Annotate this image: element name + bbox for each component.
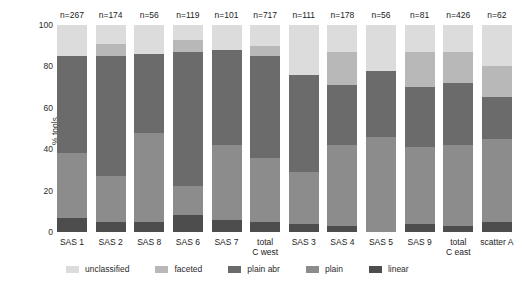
bar-segment-plain-abr[interactable] [134,54,164,133]
legend-swatch-icon [306,266,319,273]
bar-segment-plain[interactable] [57,153,87,217]
bar-segment-plain-abr[interactable] [443,83,473,145]
bar-segment-faceted[interactable] [405,52,435,87]
bar-segment-plain-abr[interactable] [212,50,242,145]
y-tick-label: 20 [44,186,53,196]
bar-column[interactable]: n=717total C west [250,25,280,232]
x-tick-label: scatter A [480,238,513,248]
bar-segment-unclassified[interactable] [482,25,512,66]
y-tick-label: 80 [44,61,53,71]
bar-segment-plain[interactable] [134,133,164,222]
bar-segment-plain-abr[interactable] [405,87,435,147]
bar-segment-unclassified[interactable] [405,25,435,52]
bar-segment-linear[interactable] [96,222,126,232]
bar-column[interactable]: n=267SAS 1 [57,25,87,232]
y-tick-label: 40 [44,144,53,154]
x-tick-label: SAS 6 [176,238,200,248]
x-tick-label: SAS 2 [99,238,123,248]
x-tick-label: SAS 7 [214,238,238,248]
bar-count-label: n=174 [99,10,123,20]
bar-segment-plain[interactable] [327,145,357,226]
bar-segment-linear[interactable] [443,226,473,232]
bar-segment-unclassified[interactable] [443,25,473,52]
legend-item[interactable]: plain [306,264,343,274]
x-tick-label: SAS 8 [137,238,161,248]
bar-column[interactable]: n=174SAS 2 [96,25,126,232]
bar-column[interactable]: n=426total C east [443,25,473,232]
bar-segment-faceted[interactable] [173,40,203,52]
bar-segment-plain-abr[interactable] [96,56,126,176]
x-tick-label: SAS 3 [292,238,316,248]
x-tick-label: SAS 4 [330,238,354,248]
bar-column[interactable]: n=62scatter A [482,25,512,232]
x-tick-label: total C east [446,238,471,257]
bar-segment-unclassified[interactable] [289,25,319,75]
bar-segment-plain-abr[interactable] [482,97,512,138]
bar-column[interactable]: n=111SAS 3 [289,25,319,232]
bar-segment-faceted[interactable] [250,46,280,56]
bar-segment-linear[interactable] [212,220,242,232]
bar-segment-plain[interactable] [405,147,435,224]
legend-label: faceted [174,264,202,274]
bar-segment-plain-abr[interactable] [327,85,357,145]
bar-segment-plain-abr[interactable] [289,75,319,172]
bar-segment-faceted[interactable] [96,44,126,56]
bar-segment-linear[interactable] [173,215,203,232]
bar-segment-plain-abr[interactable] [250,56,280,157]
bar-column[interactable]: n=81SAS 9 [405,25,435,232]
bar-segment-unclassified[interactable] [366,25,396,71]
legend-item[interactable]: unclassified [66,264,129,274]
bar-column[interactable]: n=119SAS 6 [173,25,203,232]
bar-column[interactable]: n=178SAS 4 [327,25,357,232]
x-tick-label: total C west [252,238,278,257]
bar-group: n=267SAS 1n=174SAS 2n=56SAS 8n=119SAS 6n… [57,25,512,232]
legend-label: plain abr [247,264,280,274]
bar-segment-unclassified[interactable] [134,25,164,54]
bar-segment-plain-abr[interactable] [366,71,396,137]
bar-segment-plain[interactable] [443,145,473,226]
bar-segment-faceted[interactable] [327,52,357,85]
bar-segment-faceted[interactable] [443,52,473,83]
bar-segment-linear[interactable] [289,224,319,232]
bar-segment-faceted[interactable] [482,66,512,97]
bar-segment-linear[interactable] [134,222,164,232]
bar-segment-unclassified[interactable] [96,25,126,44]
bar-segment-plain[interactable] [96,176,126,222]
x-tick-label: SAS 9 [408,238,432,248]
bar-column[interactable]: n=101SAS 7 [212,25,242,232]
bar-segment-linear[interactable] [327,226,357,232]
bar-segment-linear[interactable] [250,222,280,232]
bar-count-label: n=111 [292,10,315,20]
bar-segment-unclassified[interactable] [250,25,280,46]
bar-segment-linear[interactable] [405,224,435,232]
bar-segment-linear[interactable] [482,222,512,232]
bar-column[interactable]: n=56SAS 8 [134,25,164,232]
legend-item[interactable]: faceted [155,264,202,274]
legend-item[interactable]: plain abr [228,264,280,274]
plot-area: % tools 020406080100 n=267SAS 1n=174SAS … [57,25,512,232]
bar-segment-unclassified[interactable] [327,25,357,52]
bar-segment-plain-abr[interactable] [173,52,203,187]
y-tick-label: 0 [48,227,53,237]
y-tick-label: 60 [44,103,53,113]
bar-count-label: n=119 [176,10,199,20]
bar-segment-plain-abr[interactable] [57,56,87,153]
bar-count-label: n=426 [446,10,470,20]
bar-count-label: n=62 [487,10,506,20]
bar-segment-unclassified[interactable] [57,25,87,56]
bar-segment-plain[interactable] [173,186,203,215]
legend-label: plain [325,264,343,274]
bar-segment-unclassified[interactable] [212,25,242,50]
bar-segment-linear[interactable] [57,218,87,232]
bar-segment-plain[interactable] [366,137,396,232]
bar-segment-plain[interactable] [482,139,512,222]
bar-segment-plain[interactable] [250,158,280,222]
legend-swatch-icon [369,266,382,273]
bar-segment-plain[interactable] [289,172,319,224]
legend-item[interactable]: linear [369,264,409,274]
legend-swatch-icon [155,266,168,273]
bar-segment-unclassified[interactable] [173,25,203,39]
legend-swatch-icon [66,266,79,273]
bar-column[interactable]: n=56SAS 5 [366,25,396,232]
bar-segment-plain[interactable] [212,145,242,220]
